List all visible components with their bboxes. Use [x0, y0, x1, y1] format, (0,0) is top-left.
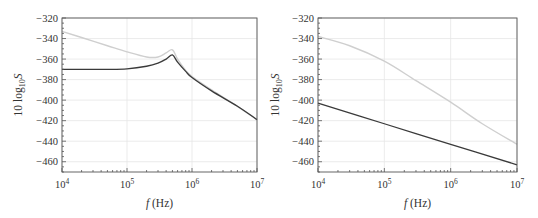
y-tick-label: −400 [36, 95, 58, 106]
plot-left: −320−340−360−380−400−420−440−46010410510… [12, 13, 264, 211]
y-tick-label: −320 [36, 13, 58, 24]
x-axis-label: f (Hz) [146, 197, 173, 210]
chart-canvas: −320−340−360−380−400−420−440−46010410510… [0, 0, 538, 218]
y-tick-label: −460 [36, 156, 58, 167]
y-axis-label: 10 log10S [269, 73, 284, 116]
x-tick-label: 104 [311, 177, 326, 190]
x-tick-label: 106 [185, 177, 200, 190]
series-line [62, 55, 257, 120]
x-tick-label: 106 [444, 177, 459, 190]
y-tick-label: −380 [292, 74, 314, 85]
x-tick-label: 105 [120, 177, 135, 190]
x-axis-label: f (Hz) [404, 197, 431, 210]
y-tick-label: −340 [36, 33, 58, 44]
y-tick-label: −420 [292, 115, 314, 126]
y-tick-label: −440 [36, 136, 58, 147]
x-tick-label: 107 [250, 177, 265, 190]
plot-right: −320−340−360−380−400−420−440−46010410510… [269, 13, 524, 211]
plot-frame [318, 18, 517, 172]
y-tick-label: −380 [36, 74, 58, 85]
x-tick-label: 105 [377, 177, 392, 190]
series-line [62, 31, 257, 119]
x-tick-label: 107 [510, 177, 525, 190]
y-tick-label: −460 [292, 156, 314, 167]
y-tick-label: −320 [292, 13, 314, 24]
y-axis-label: 10 log10S [12, 73, 27, 116]
x-tick-label: 104 [55, 177, 70, 190]
series-line [318, 103, 517, 165]
y-tick-label: −340 [292, 33, 314, 44]
y-tick-label: −360 [292, 54, 314, 65]
y-tick-label: −440 [292, 136, 314, 147]
y-tick-label: −420 [36, 115, 58, 126]
series-line [318, 36, 517, 144]
y-tick-label: −360 [36, 54, 58, 65]
y-tick-label: −400 [292, 95, 314, 106]
